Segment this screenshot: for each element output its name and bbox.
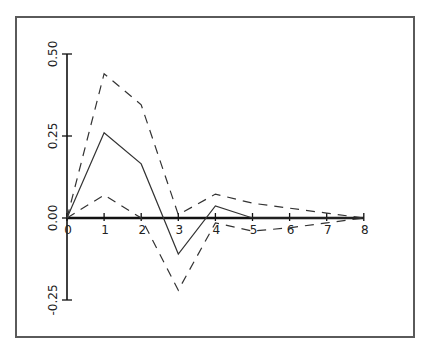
y-tick-label: 0.00 <box>46 205 60 232</box>
x-tick-label: 8 <box>361 223 369 237</box>
x-tick-label: 1 <box>101 223 109 237</box>
series-group <box>67 74 364 291</box>
x-tick-label: 6 <box>287 223 295 237</box>
series-line-upper-bound <box>67 74 364 218</box>
series-line-lower-bound <box>67 195 364 290</box>
chart-frame <box>16 17 414 337</box>
x-tick-label: 3 <box>175 223 183 237</box>
x-tick-label: 7 <box>324 223 332 237</box>
x-axis: 012345678 <box>64 213 368 237</box>
x-tick-label: 5 <box>250 223 258 237</box>
y-tick-label: 0.50 <box>46 41 60 68</box>
y-axis: -0.250.000.250.50 <box>46 41 72 316</box>
x-tick-label: 2 <box>138 223 146 237</box>
x-tick-label: 0 <box>64 223 72 237</box>
impulse-response-chart: -0.250.000.250.50 012345678 <box>0 0 428 354</box>
y-tick-label: 0.25 <box>46 123 60 150</box>
y-tick-label: -0.25 <box>46 284 60 315</box>
